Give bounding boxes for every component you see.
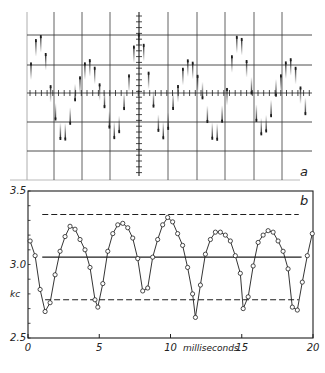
data-point xyxy=(48,301,52,305)
pulse-tip xyxy=(305,112,307,115)
data-point xyxy=(256,240,260,244)
pulse-stroke xyxy=(70,107,71,123)
data-point xyxy=(228,239,232,243)
pulse-tip xyxy=(295,67,297,70)
y-axis-label: kc xyxy=(10,289,20,299)
pulse-tip xyxy=(221,120,223,123)
data-point xyxy=(281,249,285,253)
pulse-tip xyxy=(211,137,213,140)
pulse-stroke xyxy=(30,64,31,80)
graticule xyxy=(10,12,312,180)
pulse-stroke xyxy=(148,73,149,89)
pulse-stroke xyxy=(217,123,218,139)
figure: a 051015202.53.03.5 b milliseconds kc xyxy=(0,0,325,373)
pulse-stroke xyxy=(295,68,296,84)
pulse-tip xyxy=(197,75,199,78)
pulse-tip xyxy=(123,107,125,110)
x-tick-label: 10 xyxy=(164,342,177,353)
pulse-tip xyxy=(162,136,164,139)
data-point xyxy=(93,298,97,302)
pulse-stroke xyxy=(114,122,115,138)
data-point xyxy=(83,248,87,252)
pulse-tip xyxy=(167,127,169,130)
data-point xyxy=(58,249,62,253)
pulse-stroke xyxy=(143,45,144,61)
panel-label-a: a xyxy=(300,164,308,179)
data-point xyxy=(286,267,290,271)
x-tick-label: 5 xyxy=(96,342,102,353)
pulse-stroke xyxy=(158,114,159,130)
pulse-tip xyxy=(290,58,292,61)
data-point xyxy=(233,254,237,258)
pulse-stroke xyxy=(261,118,262,134)
pulse-tip xyxy=(60,137,62,140)
pulse-tip xyxy=(300,86,302,89)
pulse-stroke xyxy=(172,93,173,109)
data-point xyxy=(295,308,299,312)
x-axis-label: milliseconds xyxy=(183,343,239,353)
pulse-tip xyxy=(275,94,277,97)
data-point xyxy=(305,254,309,258)
pulse-stroke xyxy=(60,122,61,138)
pulse-stroke xyxy=(55,103,56,119)
pulse-stroke xyxy=(168,112,169,128)
pulse-stroke xyxy=(133,47,134,63)
pulse-tip xyxy=(109,126,111,129)
data-point xyxy=(176,232,180,236)
pulse-stroke xyxy=(94,68,95,84)
data-point xyxy=(38,287,42,291)
data-point xyxy=(126,226,130,230)
pulse-tip xyxy=(153,105,155,108)
pulse-stroke xyxy=(45,55,46,71)
pulse-tip xyxy=(260,132,262,135)
data-point xyxy=(241,307,245,311)
pulse-stroke xyxy=(79,78,80,94)
data-point xyxy=(213,230,217,234)
pulse-stroke xyxy=(270,100,271,116)
pulse-tip xyxy=(241,38,243,41)
pulse-stroke xyxy=(138,35,139,51)
plot-axes xyxy=(28,191,313,338)
pulse-tip xyxy=(118,130,120,133)
pulse-stroke xyxy=(99,85,100,101)
pulse-tip xyxy=(265,129,267,132)
pulse-stroke xyxy=(290,60,291,76)
pulse-stroke xyxy=(275,79,276,95)
panel-b-frequency-plot: 051015202.53.03.5 b milliseconds kc xyxy=(10,185,319,353)
data-point xyxy=(166,215,170,219)
data-point xyxy=(156,237,160,241)
data-point xyxy=(310,232,314,236)
panel-a-oscillogram: a xyxy=(10,12,312,180)
pulse-tip xyxy=(182,68,184,71)
pulse-tip xyxy=(64,138,66,141)
pulse-stroke xyxy=(285,63,286,79)
pulse-stroke xyxy=(187,61,188,77)
series-line xyxy=(30,218,312,318)
pulse-tip xyxy=(69,122,71,125)
plot-frame xyxy=(28,191,313,338)
pulse-stroke xyxy=(123,93,124,109)
data-point xyxy=(266,229,270,233)
pulse-tip xyxy=(45,53,47,56)
y-tick-label: 3.5 xyxy=(10,185,26,196)
pulse-stroke xyxy=(256,104,257,120)
pulse-stroke xyxy=(74,84,75,100)
pulse-tip xyxy=(246,60,248,63)
pulse-tip xyxy=(172,107,174,110)
pulse-tip xyxy=(50,85,52,88)
pulse-tip xyxy=(74,98,76,101)
data-point xyxy=(208,237,212,241)
data-point xyxy=(73,227,77,231)
pulse-tip xyxy=(207,120,209,123)
data-point xyxy=(43,309,47,313)
pulse-tip xyxy=(256,119,258,122)
panel-label-b: b xyxy=(300,193,308,208)
data-point xyxy=(53,273,57,277)
pulse-tip xyxy=(138,34,140,37)
data-point xyxy=(151,255,155,259)
pulse-tip xyxy=(177,85,179,88)
pulse-tip xyxy=(226,88,228,91)
pulse-tip xyxy=(99,83,101,86)
data-point xyxy=(261,233,265,237)
pulse-tip xyxy=(84,62,86,65)
